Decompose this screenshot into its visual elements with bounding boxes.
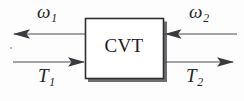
cvt-block-diagram: ω1 ω2 T1 T2 CVT (0, 0, 244, 101)
omega-1-subscript: 1 (51, 12, 58, 25)
torque-2-symbol: T (186, 65, 197, 86)
omega2-arrow (165, 29, 238, 39)
omega-1-symbol: ω (37, 1, 51, 22)
omega-2-symbol: ω (189, 1, 203, 22)
torque-2-subscript: 2 (197, 76, 204, 89)
omega1-arrow (13, 29, 85, 39)
label-torque-2: T2 (186, 66, 203, 89)
label-omega-1: ω1 (37, 2, 57, 25)
omega-2-subscript: 2 (203, 12, 210, 25)
cvt-block-label: CVT (86, 36, 162, 55)
label-omega-2: ω2 (189, 2, 209, 25)
scan-speck (10, 47, 12, 49)
torque-1-symbol: T (38, 65, 49, 86)
label-torque-1: T1 (38, 66, 55, 89)
torque-1-subscript: 1 (49, 76, 56, 89)
